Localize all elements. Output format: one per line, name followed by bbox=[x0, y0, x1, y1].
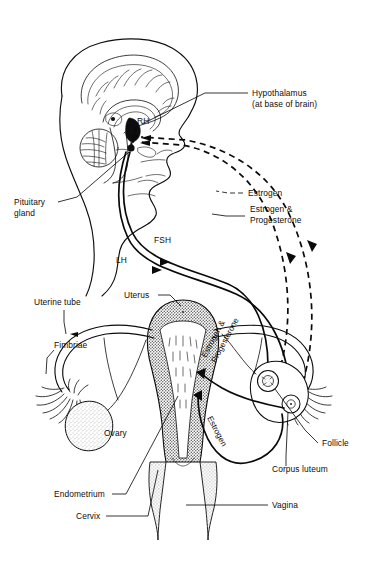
cerebrum-inner-fissure bbox=[88, 65, 173, 117]
vagina-label: Vagina bbox=[272, 500, 298, 510]
broad-ligament-left bbox=[104, 338, 118, 400]
uterine-tube-leader bbox=[64, 310, 66, 334]
fimbriae-label: Fimbriae bbox=[54, 340, 88, 350]
nasal-detail bbox=[157, 150, 172, 154]
sphenoid-sinus bbox=[138, 147, 156, 157]
tongue bbox=[138, 180, 158, 183]
fsh-arrowhead-mid bbox=[160, 258, 170, 266]
label-group-head: Hypothalamus (at base of brain) RH Pitui… bbox=[14, 88, 317, 218]
ep-feedback-leader bbox=[212, 214, 245, 216]
follicle-label: Follicle bbox=[322, 438, 349, 448]
endometrium-label: Endometrium bbox=[54, 489, 105, 499]
hypothalamus-label-line1: Hypothalamus bbox=[252, 88, 307, 98]
corpus-luteum-label: Corpus luteum bbox=[272, 464, 328, 474]
estrogen-feedback-label: Estrogen bbox=[248, 188, 283, 198]
ep-feedback-label-line1: Estrogen & bbox=[250, 204, 293, 214]
ovarian-ligament-left bbox=[108, 340, 146, 410]
uterus-label: Uterus bbox=[124, 290, 149, 300]
thalamus-dot bbox=[111, 117, 115, 121]
reproductive-hormone-diagram: Hypothalamus (at base of brain) RH Pitui… bbox=[0, 0, 367, 572]
mouth-line bbox=[146, 175, 165, 177]
pituitary-gland-shape bbox=[127, 144, 134, 151]
cervix-label: Cervix bbox=[76, 511, 101, 521]
palate bbox=[141, 160, 165, 162]
estrogen-feedback-arrow-head bbox=[140, 140, 150, 146]
ovary-left bbox=[65, 401, 113, 451]
hypothalamus-label-line2: (at base of brain) bbox=[252, 99, 317, 109]
pituitary-label-line2: gland bbox=[14, 208, 35, 218]
cerebrum-gyri bbox=[92, 69, 174, 114]
uterine-tube-left-upper bbox=[55, 325, 152, 392]
fimbriae-leader bbox=[46, 350, 54, 374]
uterine-tube-label: Uterine tube bbox=[34, 297, 81, 307]
lh-label: LH bbox=[116, 255, 127, 265]
cervix-vagina-right-wall bbox=[200, 462, 217, 540]
ovary-right bbox=[250, 361, 308, 422]
jaw-line bbox=[128, 194, 155, 196]
estrogen-uterus-label-group: Estrogen bbox=[205, 415, 229, 449]
estrogen-uterus-label: Estrogen bbox=[205, 415, 229, 449]
ovary-label: Ovary bbox=[104, 428, 128, 438]
estrogen-feedback-arrow-mid bbox=[286, 252, 296, 264]
rh-label: RH bbox=[137, 116, 149, 126]
figure-canvas: Hypothalamus (at base of brain) RH Pitui… bbox=[0, 0, 367, 572]
ep-feedback-arrow-mid bbox=[307, 240, 317, 252]
fundus-mark bbox=[182, 311, 184, 313]
neck-outline bbox=[60, 96, 94, 296]
corpus-luteum-dot bbox=[290, 403, 292, 405]
skull-base bbox=[113, 177, 142, 183]
head-diagram bbox=[60, 39, 198, 296]
lh-arrowhead-mid bbox=[152, 266, 162, 274]
pituitary-label-line1: Pituitary bbox=[14, 197, 46, 207]
ep-feedback-arrow-head bbox=[141, 135, 151, 141]
pons bbox=[116, 149, 128, 150]
ep-feedback-label-line2: Progesterone bbox=[250, 215, 302, 225]
estrogen-feedback-leader bbox=[216, 191, 243, 193]
fsh-label: FSH bbox=[154, 235, 171, 245]
